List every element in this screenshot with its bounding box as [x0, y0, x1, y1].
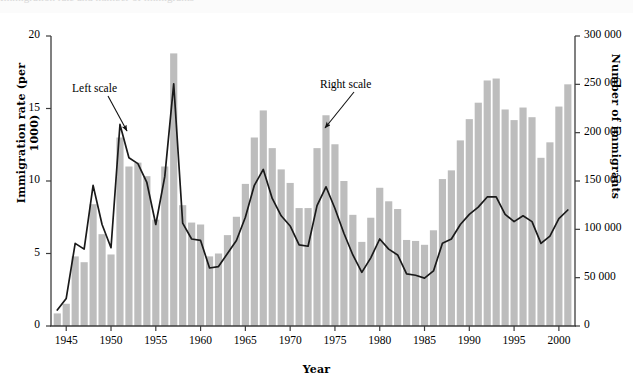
y-right-tick-label: 250 000 — [584, 76, 621, 88]
x-tick-label: 1965 — [223, 334, 267, 346]
immigration-rate-line — [57, 84, 568, 310]
y-right-tick-label: 100 000 — [584, 221, 621, 233]
immigration-chart: Immigration rate and number of immigrant… — [0, 0, 633, 383]
bar — [340, 181, 347, 326]
bar — [385, 201, 392, 326]
y-right-tick-label: 200 000 — [584, 125, 621, 137]
bar — [421, 245, 428, 326]
x-tick-label: 1975 — [313, 334, 357, 346]
annotation-left-scale: Left scale — [72, 82, 117, 94]
y-right-tick-label: 300 000 — [584, 28, 621, 40]
y-left-tick-label: 20 — [6, 28, 40, 40]
annotation-arrow-right-scale — [325, 92, 354, 128]
bar — [448, 170, 455, 326]
x-tick-label: 1990 — [447, 334, 491, 346]
y-left-tick-label: 10 — [6, 173, 40, 185]
bar — [81, 262, 88, 326]
bar — [304, 208, 311, 326]
bar — [564, 84, 571, 326]
bar — [269, 148, 276, 326]
y-right-tick-label: 0 — [584, 318, 590, 330]
bar — [430, 230, 437, 326]
x-tick-label: 2000 — [537, 334, 581, 346]
bar — [376, 188, 383, 326]
bar — [152, 220, 159, 326]
bar — [260, 110, 267, 326]
bar — [331, 144, 338, 326]
bar — [287, 183, 294, 326]
y-left-tick-label: 0 — [6, 318, 40, 330]
x-tick-label: 1970 — [268, 334, 312, 346]
bar — [313, 148, 320, 326]
x-tick-label: 1985 — [403, 334, 447, 346]
bar — [394, 209, 401, 326]
bar — [251, 138, 258, 327]
annotation-right-scale: Right scale — [320, 78, 371, 90]
bar — [511, 120, 518, 326]
bar — [367, 218, 374, 326]
bar — [63, 304, 70, 326]
x-tick-label: 1945 — [44, 334, 88, 346]
y-right-tick-label: 50 000 — [584, 270, 616, 282]
x-tick-label: 1950 — [89, 334, 133, 346]
bar — [54, 313, 61, 326]
bar — [484, 80, 491, 326]
bar — [322, 115, 329, 326]
chart-canvas — [0, 0, 633, 383]
bar — [412, 241, 419, 326]
bar — [502, 109, 509, 326]
y-left-tick-label: 15 — [6, 101, 40, 113]
bar — [466, 119, 473, 326]
y-left-tick-label: 5 — [6, 246, 40, 258]
annotation-arrow-left-scale — [108, 96, 127, 131]
bar — [72, 256, 79, 326]
x-axis-title: Year — [0, 363, 633, 376]
y-right-tick-label: 150 000 — [584, 173, 621, 185]
bar — [358, 242, 365, 326]
bar — [457, 140, 464, 326]
bar — [475, 103, 482, 326]
bar — [278, 169, 285, 326]
bar — [296, 208, 303, 326]
bar — [546, 142, 553, 326]
x-tick-label: 1955 — [134, 334, 178, 346]
x-tick-label: 1960 — [179, 334, 223, 346]
bar — [125, 167, 132, 327]
bars-group — [54, 53, 572, 326]
bar — [143, 176, 150, 326]
bar — [98, 234, 105, 326]
bar — [403, 240, 410, 326]
y-axis-left-title: Immigration rate (per 1000) — [15, 48, 41, 218]
x-tick-label: 1980 — [358, 334, 402, 346]
bar — [107, 254, 114, 326]
x-tick-label: 1995 — [492, 334, 536, 346]
bar — [349, 215, 356, 326]
bar — [134, 163, 141, 326]
bar — [90, 204, 97, 326]
